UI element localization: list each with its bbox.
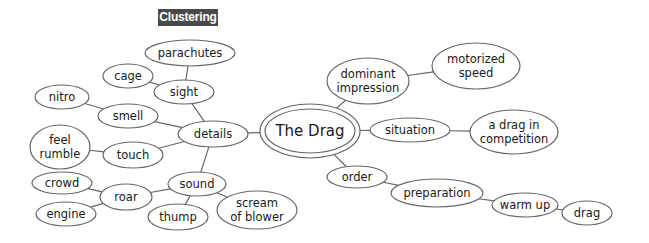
node-a-drag-in-competition: a drag incompetition bbox=[470, 110, 558, 154]
central-topic-the-drag: The Drag bbox=[260, 104, 360, 158]
connector-roar-engine bbox=[90, 203, 103, 207]
connector-sound-thump bbox=[185, 196, 190, 205]
node-label: impression bbox=[337, 81, 400, 95]
node-label: speed bbox=[459, 66, 494, 80]
nodes-layer: detailssightparachutescagesmellnitrotouc… bbox=[30, 40, 612, 230]
node-label: order bbox=[342, 170, 373, 184]
connector-sound-roar bbox=[150, 189, 170, 193]
node-label: of blower bbox=[230, 210, 284, 224]
node-label: sound bbox=[180, 177, 215, 191]
node-label: details bbox=[194, 127, 232, 141]
node-label: sight bbox=[170, 85, 199, 99]
node-thump: thump bbox=[148, 204, 208, 230]
connector-sound-scream-of-blower bbox=[217, 193, 227, 198]
node-label: cage bbox=[114, 69, 142, 83]
connector-details-smell bbox=[155, 122, 183, 128]
node-label: drag bbox=[574, 206, 600, 220]
node-cage: cage bbox=[103, 64, 153, 88]
node-label: a drag in bbox=[488, 118, 539, 132]
node-sound: sound bbox=[168, 172, 226, 196]
node-label: touch bbox=[117, 148, 149, 162]
connector-dominant-impression-motorized-speed bbox=[408, 72, 434, 76]
connector-preparation-warm-up bbox=[479, 199, 494, 201]
node-label: smell bbox=[113, 109, 144, 123]
connector-details-sound bbox=[201, 147, 209, 172]
connector-smell-nitro bbox=[85, 104, 104, 109]
connector-sight-parachutes bbox=[186, 66, 188, 80]
node-label: thump bbox=[159, 210, 197, 224]
node-label: nitro bbox=[49, 90, 76, 104]
node-details: details bbox=[178, 121, 248, 147]
node-smell: smell bbox=[98, 104, 158, 128]
node-crowd: crowd bbox=[32, 172, 92, 194]
node-parachutes: parachutes bbox=[145, 40, 235, 66]
node-label: feel bbox=[49, 133, 70, 147]
node-label: preparation bbox=[403, 186, 470, 200]
node-preparation: preparation bbox=[391, 179, 483, 207]
node-label: rumble bbox=[40, 147, 81, 161]
node-feel-rumble: feelrumble bbox=[30, 125, 90, 169]
connector-details-touch bbox=[159, 142, 185, 149]
node-label: situation bbox=[385, 123, 435, 137]
node-motorized-speed: motorizedspeed bbox=[432, 43, 520, 89]
node-touch: touch bbox=[103, 142, 163, 168]
connector-roar-crowd bbox=[88, 189, 102, 192]
diagram-canvas: detailssightparachutescagesmellnitrotouc… bbox=[0, 0, 649, 243]
node-engine: engine bbox=[36, 202, 96, 226]
node-nitro: nitro bbox=[35, 85, 89, 109]
node-drag: drag bbox=[562, 201, 612, 225]
node-dominant-impression: dominantimpression bbox=[327, 58, 409, 104]
node-sight: sight bbox=[154, 80, 214, 104]
node-order: order bbox=[327, 166, 387, 188]
node-label: motorized bbox=[447, 52, 505, 66]
cluster-diagram: Clustering detailssightparachutescagesme… bbox=[0, 0, 649, 243]
node-label: parachutes bbox=[158, 46, 223, 60]
node-situation: situation bbox=[370, 118, 450, 142]
node-roar: roar bbox=[100, 184, 152, 210]
connector-touch-feel-rumble bbox=[90, 150, 104, 152]
node-scream-of-blower: screamof blower bbox=[217, 191, 297, 229]
node-label: dominant bbox=[341, 67, 396, 81]
node-label: warm up bbox=[500, 198, 550, 212]
node-warm-up: warm up bbox=[492, 193, 558, 217]
connector-the-drag-dominant-impression bbox=[337, 100, 346, 108]
node-label: competition bbox=[480, 132, 549, 146]
node-label: The Drag bbox=[274, 122, 344, 140]
connector-warm-up-drag bbox=[556, 209, 563, 210]
node-label: scream bbox=[236, 196, 278, 210]
connector-sight-cage bbox=[149, 82, 159, 85]
connector-details-sight bbox=[192, 104, 204, 122]
node-label: crowd bbox=[45, 176, 80, 190]
connector-the-drag-order bbox=[334, 155, 346, 167]
connector-order-preparation bbox=[383, 182, 398, 185]
node-label: roar bbox=[114, 190, 138, 204]
node-label: engine bbox=[46, 207, 85, 221]
